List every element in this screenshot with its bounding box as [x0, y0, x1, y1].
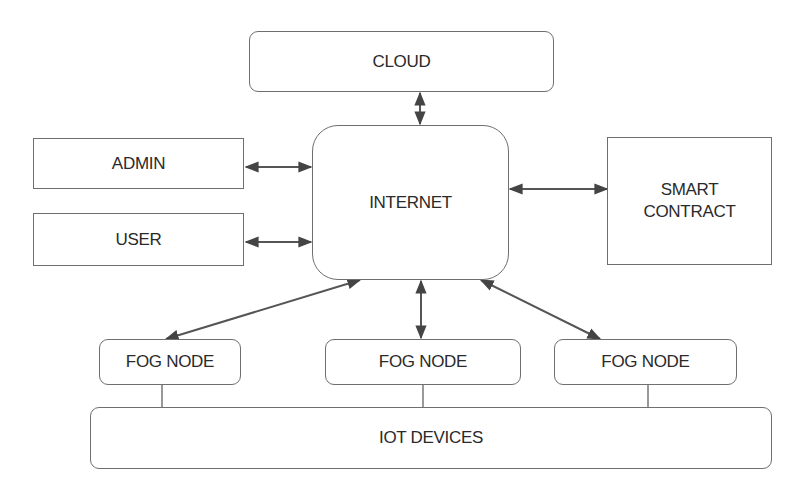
internet-node: INTERNET: [312, 125, 509, 280]
user-label: USER: [115, 229, 161, 251]
user-node: USER: [33, 213, 244, 266]
internet-label: INTERNET: [369, 192, 452, 214]
cloud-label: CLOUD: [372, 51, 430, 73]
smart-contract-label-line1: SMART: [661, 179, 719, 201]
smart-contract-label-line2: CONTRACT: [643, 201, 735, 223]
fog-node-2-label: FOG NODE: [379, 351, 467, 373]
cloud-node: CLOUD: [249, 31, 554, 92]
admin-label: ADMIN: [112, 153, 165, 175]
edge-internet-fog-1: [166, 280, 360, 339]
edge-internet-fog-3: [481, 280, 600, 339]
fog-node-1: FOG NODE: [99, 339, 241, 385]
fog-node-1-label: FOG NODE: [126, 351, 214, 373]
admin-node: ADMIN: [33, 138, 244, 189]
smart-contract-node: SMART CONTRACT: [607, 137, 772, 265]
fog-node-3: FOG NODE: [554, 339, 737, 385]
iot-devices-label: IOT DEVICES: [379, 427, 483, 449]
fog-node-2: FOG NODE: [325, 339, 521, 385]
fog-node-3-label: FOG NODE: [601, 351, 689, 373]
iot-devices-node: IOT DEVICES: [90, 407, 772, 469]
